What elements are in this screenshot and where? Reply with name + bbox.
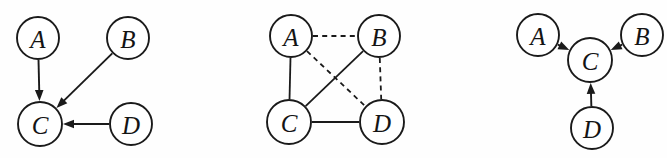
edge-panel-middle-B-D [380,58,381,99]
arrowhead-icon-panel-left-D-C [63,120,74,129]
node-panel-right-A[interactable]: A [517,14,559,56]
node-panel-middle-B[interactable]: B [358,15,400,57]
edge-panel-left-A-C [39,60,40,92]
graph-figure: ABCDABCDABCD [0,0,667,158]
arrowhead-icon-panel-right-A-C [557,41,569,50]
node-label-panel-middle-D: D [372,110,391,137]
graph-canvas: ABCDABCDABCD [0,0,667,158]
node-panel-left-C[interactable]: C [18,102,62,146]
node-panel-right-B[interactable]: B [621,14,663,56]
node-panel-middle-C[interactable]: C [267,100,311,144]
arrowhead-icon-panel-right-D-C [587,83,596,94]
node-label-panel-left-A: A [28,26,46,53]
node-panel-left-A[interactable]: A [17,17,59,59]
node-label-panel-left-D: D [121,112,140,139]
node-label-panel-middle-B: B [371,24,386,51]
node-label-panel-left-C: C [32,112,49,139]
node-panel-middle-A[interactable]: A [270,15,312,57]
node-label-panel-middle-C: C [281,110,298,137]
node-label-panel-right-A: A [528,23,546,50]
node-panel-left-B[interactable]: B [107,17,149,59]
node-panel-right-C[interactable]: C [568,38,612,82]
node-label-panel-right-D: D [582,116,601,143]
nodes-layer: ABCDABCDABCD [17,14,663,149]
edge-panel-middle-B-C [306,51,363,106]
edge-panel-middle-A-C [290,58,291,99]
node-panel-right-D[interactable]: D [571,107,613,149]
arrowhead-icon-panel-right-B-C [611,41,623,50]
node-label-panel-right-C: C [582,48,599,75]
edge-panel-middle-A-D [307,51,365,106]
arrowhead-icon-panel-left-A-C [35,90,44,101]
edge-panel-left-B-C [63,53,112,101]
node-label-panel-middle-A: A [281,24,299,51]
node-panel-middle-D[interactable]: D [360,100,404,144]
node-label-panel-left-B: B [120,26,135,53]
node-label-panel-right-B: B [634,23,649,50]
node-panel-left-D[interactable]: D [110,103,152,145]
